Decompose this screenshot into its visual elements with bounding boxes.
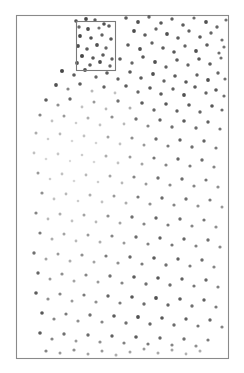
data-point	[98, 60, 102, 64]
data-point	[196, 204, 199, 207]
figure-root	[0, 0, 244, 373]
data-point	[102, 22, 106, 26]
data-point	[75, 122, 78, 125]
data-point	[154, 137, 157, 140]
data-point	[69, 160, 71, 162]
data-point	[85, 47, 89, 51]
data-point	[119, 143, 122, 146]
data-point	[98, 340, 101, 343]
data-point	[101, 201, 104, 204]
data-point	[124, 84, 128, 88]
data-point	[66, 87, 69, 90]
data-point	[38, 113, 41, 116]
data-point	[77, 200, 80, 203]
data-point	[194, 126, 197, 129]
data-point	[91, 56, 95, 60]
data-point	[115, 354, 118, 357]
data-point	[184, 197, 187, 200]
data-point	[148, 322, 151, 325]
data-point	[52, 317, 55, 320]
data-point	[118, 301, 121, 304]
data-point	[120, 281, 123, 284]
data-point	[162, 79, 165, 82]
data-point	[72, 73, 76, 77]
data-point	[188, 264, 191, 267]
data-point	[166, 303, 169, 306]
scatter-plot-canvas[interactable]	[0, 0, 244, 373]
data-point	[205, 43, 209, 47]
data-point	[196, 324, 199, 327]
data-point	[158, 118, 161, 121]
data-point	[176, 257, 179, 260]
data-point	[89, 36, 93, 40]
data-point	[206, 238, 209, 241]
data-point	[114, 92, 117, 95]
data-point	[78, 34, 82, 38]
data-point	[124, 321, 127, 324]
data-point	[95, 221, 98, 224]
data-point	[140, 101, 144, 105]
data-point	[148, 202, 151, 205]
data-point	[198, 35, 202, 39]
data-point	[150, 41, 153, 44]
data-point	[218, 245, 221, 248]
data-point	[151, 72, 155, 76]
data-point	[222, 45, 225, 48]
data-point	[83, 214, 86, 217]
data-point	[166, 144, 169, 147]
data-point	[104, 254, 107, 257]
data-point	[136, 315, 140, 319]
data-point	[157, 352, 160, 355]
data-point	[80, 54, 84, 58]
data-point	[88, 313, 91, 316]
data-point	[68, 97, 71, 100]
data-point	[97, 281, 100, 284]
data-point	[146, 342, 149, 345]
data-point	[146, 242, 149, 245]
data-point	[171, 349, 174, 352]
data-point	[216, 185, 219, 188]
data-point	[143, 348, 146, 351]
data-point	[158, 236, 161, 239]
data-point	[204, 178, 207, 181]
data-point	[56, 103, 59, 106]
data-point	[180, 177, 183, 180]
data-point	[154, 216, 157, 219]
data-point	[123, 123, 126, 126]
data-point	[184, 317, 187, 320]
data-point	[136, 195, 139, 198]
data-point	[100, 320, 103, 323]
data-point	[176, 36, 180, 40]
data-point	[220, 38, 223, 41]
data-point	[192, 184, 195, 187]
data-point	[93, 261, 96, 264]
data-point	[129, 107, 132, 110]
data-point	[47, 138, 50, 141]
data-point	[76, 319, 79, 322]
data-point	[32, 251, 35, 254]
data-point	[121, 182, 124, 185]
data-point	[159, 21, 163, 25]
data-point	[51, 238, 54, 241]
data-point	[142, 222, 145, 225]
data-point	[170, 17, 173, 20]
data-point	[71, 220, 74, 223]
data-point	[156, 276, 160, 280]
data-point	[136, 20, 140, 24]
data-point	[46, 297, 49, 300]
data-point	[37, 172, 40, 175]
data-point	[182, 337, 185, 340]
data-point	[95, 142, 98, 145]
data-point	[34, 291, 38, 295]
data-point	[204, 278, 207, 281]
data-point	[60, 69, 64, 73]
data-point	[85, 174, 88, 177]
data-point	[180, 277, 183, 280]
data-point	[172, 323, 175, 326]
data-point	[219, 56, 222, 59]
data-point	[104, 46, 107, 49]
data-point	[164, 263, 167, 266]
data-point	[72, 348, 75, 351]
data-point	[97, 26, 100, 29]
data-point	[193, 85, 197, 89]
